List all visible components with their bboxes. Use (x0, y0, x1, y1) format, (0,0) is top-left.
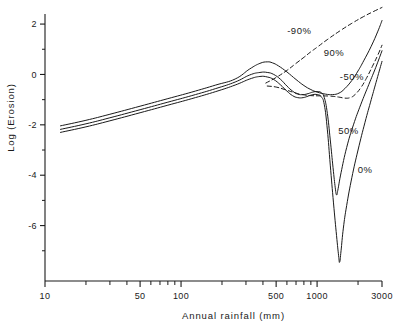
annotation-label: -50% (340, 71, 364, 82)
x-axis-ticks (45, 281, 382, 287)
annotation-label: 90% (324, 47, 345, 58)
erosion-rainfall-figure: 20-2-4-6 105010050010003000 -90%90%-50%5… (0, 0, 393, 327)
series-annotations: -90%90%-50%50%0% (287, 25, 372, 175)
x-axis-tick-labels: 105010050010003000 (40, 291, 393, 301)
series-line-neg90pct (266, 7, 382, 83)
x-tick-label: 1000 (306, 291, 328, 301)
y-tick-label: -6 (28, 221, 37, 231)
y-tick-label: -4 (28, 170, 37, 180)
series-line-0pct (61, 61, 383, 262)
annotation-label: 50% (338, 125, 359, 136)
y-tick-label: -2 (28, 120, 37, 130)
y-tick-label: 0 (32, 70, 37, 80)
annotation-label: -90% (287, 25, 311, 36)
data-series-group (61, 7, 383, 262)
x-tick-label: 10 (40, 291, 51, 301)
y-axis-title: Log (Erosion) (5, 83, 16, 152)
annotation-label: 0% (358, 164, 373, 175)
x-tick-label: 500 (268, 291, 284, 301)
series-line-90pct (61, 21, 383, 126)
x-tick-label: 3000 (371, 291, 393, 301)
y-axis-tick-labels: 20-2-4-6 (28, 19, 37, 231)
x-axis-title: Annual rainfall (mm) (182, 310, 285, 321)
x-tick-label: 100 (173, 291, 189, 301)
chart-canvas: 20-2-4-6 105010050010003000 -90%90%-50%5… (0, 0, 393, 327)
y-tick-label: 2 (32, 19, 37, 29)
series-line-50pct (61, 51, 383, 195)
x-tick-label: 50 (135, 291, 146, 301)
y-axis-ticks (40, 24, 45, 251)
